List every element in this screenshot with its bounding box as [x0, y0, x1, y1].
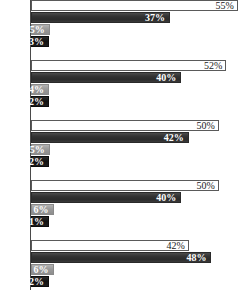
- bar-value-label: 2%: [29, 277, 48, 287]
- bar-value-label: 52%: [204, 61, 225, 71]
- bar-row: 37%: [31, 12, 251, 23]
- bar-row: 2%: [31, 156, 251, 167]
- bar-row: 5%: [31, 144, 251, 155]
- bar-row: 40%: [31, 72, 251, 83]
- bar-group: 52%40%4%2%: [31, 60, 251, 107]
- bar-series-3: 5%: [31, 144, 50, 155]
- bar-series-1: 55%: [31, 0, 238, 11]
- bar-row: 40%: [31, 192, 251, 203]
- bar-series-1: 42%: [31, 240, 189, 251]
- bar-row: 2%: [31, 96, 251, 107]
- bar-series-1: 52%: [31, 60, 226, 71]
- bar-row: 48%: [31, 252, 251, 263]
- bar-group: 42%48%6%2%: [31, 240, 251, 287]
- bar-row: 2%: [31, 276, 251, 287]
- bar-value-label: 55%: [215, 1, 236, 11]
- bar-group: 50%40%6%1%: [31, 180, 251, 227]
- bar-row: 55%: [31, 0, 251, 11]
- bar-value-label: 50%: [197, 181, 218, 191]
- bar-row: 50%: [31, 120, 251, 131]
- bar-series-4: 3%: [31, 36, 49, 47]
- bar-series-3: 4%: [31, 84, 49, 95]
- bar-series-4: 2%: [31, 156, 49, 167]
- bar-series-3: 5%: [31, 24, 50, 35]
- bar-group: 50%42%5%2%: [31, 120, 251, 167]
- group-gap: [31, 228, 251, 240]
- bar-value-label: 40%: [156, 73, 180, 83]
- group-gap: [31, 108, 251, 120]
- bar-chart: 55%37%5%3%52%40%4%2%50%42%5%2%50%40%6%1%…: [0, 0, 251, 297]
- bar-value-label: 6%: [34, 265, 53, 275]
- bar-value-label: 2%: [29, 157, 48, 167]
- bar-value-label: 37%: [145, 13, 169, 23]
- bar-row: 42%: [31, 132, 251, 143]
- bar-series-3: 6%: [31, 264, 54, 275]
- bar-value-label: 5%: [30, 145, 49, 155]
- bar-value-label: 48%: [186, 253, 210, 263]
- bar-value-label: 50%: [197, 121, 218, 131]
- group-gap: [31, 168, 251, 180]
- bar-series-2: 37%: [31, 12, 170, 23]
- bar-series-1: 50%: [31, 120, 219, 131]
- bar-row: 6%: [31, 204, 251, 215]
- bar-row: 50%: [31, 180, 251, 191]
- bar-series-2: 48%: [31, 252, 211, 263]
- bar-row: 6%: [31, 264, 251, 275]
- bar-group: 55%37%5%3%: [31, 0, 251, 47]
- bar-value-label: 2%: [29, 97, 48, 107]
- group-gap: [31, 48, 251, 60]
- bar-value-label: 42%: [167, 241, 188, 251]
- bar-value-label: 6%: [34, 205, 53, 215]
- bar-series-4: 2%: [31, 96, 49, 107]
- bar-row: 3%: [31, 36, 251, 47]
- bar-value-label: 1%: [29, 217, 48, 227]
- bar-series-4: 2%: [31, 276, 49, 287]
- bar-value-label: 40%: [156, 193, 180, 203]
- bar-series-1: 50%: [31, 180, 219, 191]
- bar-value-label: 42%: [164, 133, 188, 143]
- bar-value-label: 5%: [30, 25, 49, 35]
- plot-area: 55%37%5%3%52%40%4%2%50%42%5%2%50%40%6%1%…: [31, 0, 251, 297]
- bar-series-2: 40%: [31, 192, 181, 203]
- bar-series-3: 6%: [31, 204, 54, 215]
- bar-series-2: 42%: [31, 132, 189, 143]
- bar-series-4: 1%: [31, 216, 49, 227]
- bar-row: 1%: [31, 216, 251, 227]
- bar-row: 4%: [31, 84, 251, 95]
- bar-row: 52%: [31, 60, 251, 71]
- bar-row: 5%: [31, 24, 251, 35]
- bar-row: 42%: [31, 240, 251, 251]
- bar-series-2: 40%: [31, 72, 181, 83]
- bar-value-label: 3%: [29, 37, 48, 47]
- bar-value-label: 4%: [29, 85, 48, 95]
